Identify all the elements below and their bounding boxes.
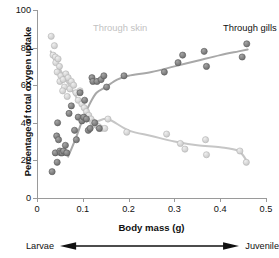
data-point [71, 127, 77, 133]
data-point [203, 152, 209, 158]
plot-area: Through skin Through gills 0204060801000… [37, 10, 266, 198]
data-point [68, 103, 74, 109]
stage-label-juvenile: Juvenile [245, 241, 279, 251]
data-point [101, 73, 107, 79]
data-point [83, 116, 89, 122]
y-tick-label: 100 [16, 5, 31, 15]
double-headed-arrow-icon [60, 240, 239, 252]
data-point [180, 52, 186, 58]
data-point [161, 69, 167, 75]
series-label-through-skin: Through skin [93, 22, 147, 33]
y-tick-label: 80 [21, 43, 31, 53]
data-point [105, 116, 111, 122]
data-point [177, 140, 183, 146]
data-point [202, 137, 208, 143]
x-axis-title: Body mass (g) [37, 222, 266, 233]
data-point [96, 125, 102, 131]
data-point [56, 63, 62, 69]
trend-curve [68, 49, 248, 156]
y-tick-mark [33, 10, 37, 11]
data-point [71, 82, 77, 88]
x-tick-mark [174, 198, 175, 202]
x-tick-label: 0.2 [122, 204, 135, 214]
x-tick-mark [37, 198, 38, 202]
data-point [203, 63, 209, 69]
y-tick-mark [33, 160, 37, 161]
y-axis-title: Percentage of total oxygen uptake [22, 9, 33, 195]
data-point [49, 169, 55, 175]
y-tick-label: 20 [21, 155, 31, 165]
data-point [164, 131, 170, 137]
y-tick-label: 0 [26, 193, 31, 203]
series-label-through-gills: Through gills [223, 22, 277, 33]
data-point [82, 97, 88, 103]
data-point [182, 146, 188, 152]
data-point [62, 142, 68, 148]
x-tick-label: 0.3 [168, 204, 181, 214]
data-canvas [37, 10, 266, 198]
y-tick-mark [33, 48, 37, 49]
x-tick-mark [220, 198, 221, 202]
data-point [54, 159, 60, 165]
data-point [51, 43, 57, 49]
data-point [175, 60, 181, 66]
data-point [55, 137, 61, 143]
data-point [48, 33, 54, 39]
data-point [55, 56, 61, 62]
data-point [64, 93, 70, 99]
data-point [124, 129, 130, 135]
x-tick-label: 0.5 [260, 204, 273, 214]
data-point [239, 54, 245, 60]
data-point [77, 90, 83, 96]
data-point [64, 150, 70, 156]
x-tick-label: 0.1 [76, 204, 89, 214]
x-axis-line [37, 198, 266, 199]
y-tick-label: 60 [21, 80, 31, 90]
x-tick-mark [129, 198, 130, 202]
data-point [243, 159, 249, 165]
data-point [201, 48, 207, 54]
x-tick-mark [266, 198, 267, 202]
x-tick-label: 0.4 [214, 204, 227, 214]
data-point [87, 125, 93, 131]
stage-label-larvae: Larvae [26, 241, 54, 251]
y-tick-label: 40 [21, 118, 31, 128]
y-tick-mark [33, 85, 37, 86]
data-point [73, 137, 79, 143]
data-point [104, 84, 110, 90]
oxygen-uptake-figure: Percentage of total oxygen uptake Throug… [0, 0, 279, 258]
data-point [92, 120, 98, 126]
data-point [55, 120, 61, 126]
x-tick-label: 0 [34, 204, 39, 214]
data-point [244, 41, 250, 47]
x-tick-mark [83, 198, 84, 202]
y-tick-mark [33, 123, 37, 124]
stage-scale: Larvae Juvenile [26, 238, 279, 254]
data-point [237, 148, 243, 154]
data-point [66, 110, 72, 116]
data-point [60, 88, 66, 94]
data-point [121, 73, 127, 79]
